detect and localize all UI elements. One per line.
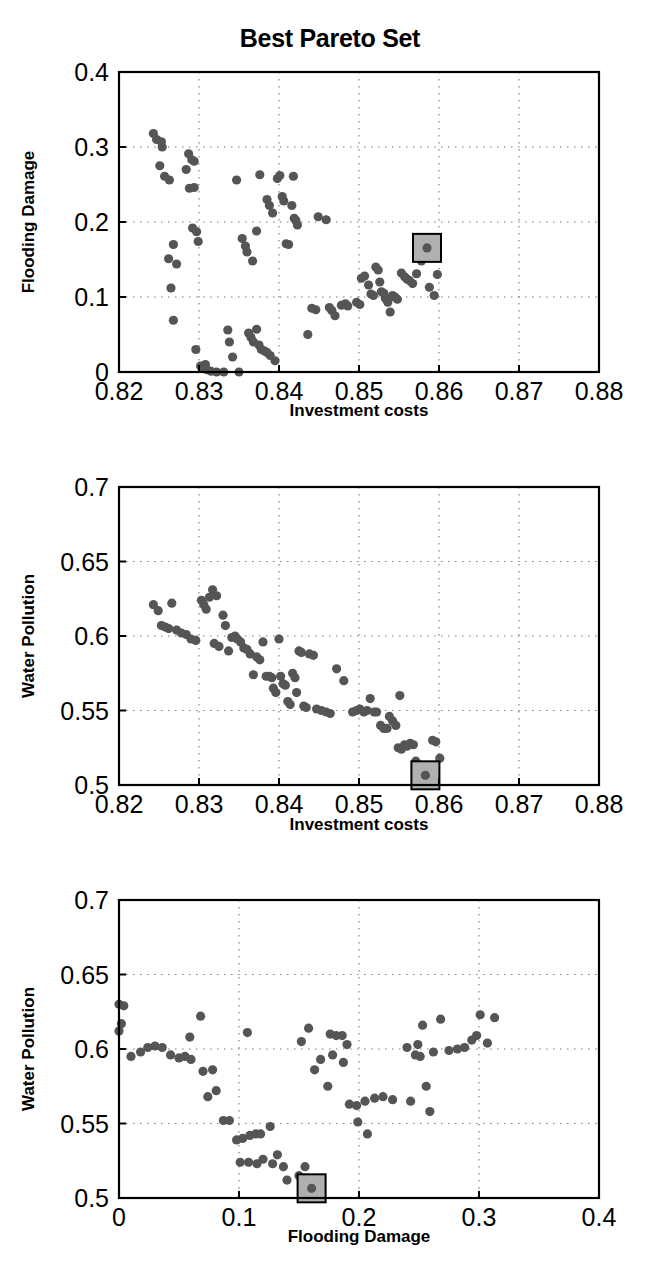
figure-root: Best Pareto Set 0.820.830.840.850.860.87… [0,0,660,1280]
data-point [342,1040,351,1049]
x-tick-label: 0.85 [335,790,384,818]
data-point [339,676,348,685]
data-point [360,271,369,280]
y-tick-label: 0.1 [74,283,109,311]
data-point [224,646,233,655]
y-tick-label: 0.4 [74,58,109,86]
x-tick-label: 0.88 [575,377,624,405]
data-point [196,1012,205,1021]
y-axis-title: Water Pollution [19,987,38,1111]
data-point [304,1024,313,1033]
data-point [249,670,258,679]
data-point [316,1055,325,1064]
y-tick-label: 0.65 [60,961,109,989]
data-point [119,1001,128,1010]
data-point [225,337,234,346]
data-point [393,295,402,304]
y-tick-label: 0.2 [74,208,109,236]
panel-flooding-vs-investment: 0.820.830.840.850.860.870.8800.10.20.30.… [0,0,660,430]
data-point [460,1043,469,1052]
y-tick-label: 0.6 [74,1035,109,1063]
x-tick-label: 0.86 [415,790,464,818]
y-tick-label: 0 [95,358,109,386]
x-tick-label: 0.1 [222,1203,257,1231]
data-point [444,1046,453,1055]
plot-area-panel-2: 0.820.830.840.850.860.870.880.50.550.60.… [0,430,660,850]
data-point [300,1162,309,1171]
data-point [255,655,264,664]
data-point [164,254,173,263]
data-point [271,688,280,697]
highlighted-data-point [307,1184,316,1193]
data-point [223,325,232,334]
x-tick-label: 0.83 [175,377,224,405]
data-point [182,165,191,174]
highlighted-data-point [421,771,430,780]
y-tick-label: 0.5 [74,1184,109,1212]
data-point [360,1097,369,1106]
data-point [328,1050,337,1059]
data-point [364,280,373,289]
data-point [490,1013,499,1022]
data-point [413,1040,422,1049]
data-point [258,637,267,646]
data-point [309,651,318,660]
data-point [166,1050,175,1059]
data-point [279,196,288,205]
data-point [267,673,276,682]
data-point [185,1032,194,1041]
x-tick-label: 0.84 [255,790,304,818]
data-point [202,605,211,614]
data-point [422,1082,431,1091]
data-point [433,270,442,279]
y-axis-title: Flooding Damage [19,151,38,294]
data-point [158,1043,167,1052]
data-point [270,356,279,365]
data-point [476,1010,485,1019]
data-point [165,175,174,184]
data-point [416,1052,425,1061]
data-point [386,307,395,316]
x-tick-label: 0.87 [495,790,544,818]
data-point [326,709,335,718]
data-point [338,1031,347,1040]
data-point [289,172,298,181]
data-point [409,740,418,749]
x-tick-label: 0.4 [582,1203,617,1231]
data-point [273,1150,282,1159]
y-tick-label: 0.65 [60,548,109,576]
data-point [268,1159,277,1168]
data-point [169,316,178,325]
x-axis-title: Investment costs [290,401,429,420]
data-point [172,259,181,268]
data-point [425,1107,434,1116]
data-point [310,1065,319,1074]
data-point [155,161,164,170]
data-point [252,226,261,235]
data-point [372,707,381,716]
data-point [212,1086,221,1095]
data-point [218,611,227,620]
y-tick-label: 0.3 [74,133,109,161]
data-point [375,277,384,286]
x-axis-title: Investment costs [290,815,429,834]
data-point [330,311,339,320]
data-point [369,291,378,300]
data-point [382,724,391,733]
y-tick-label: 0.7 [74,886,109,914]
data-point [352,1101,361,1110]
data-point [158,142,167,151]
data-point [297,648,306,657]
data-point [191,636,200,645]
data-point [203,1092,212,1101]
data-point [391,721,400,730]
data-point [292,688,301,697]
y-tick-label: 0.55 [60,697,109,725]
data-point [429,1047,438,1056]
data-point [418,1021,427,1030]
data-point [275,171,284,180]
data-point [190,183,199,192]
data-point [164,624,173,633]
data-point [332,664,341,673]
data-point [232,175,241,184]
